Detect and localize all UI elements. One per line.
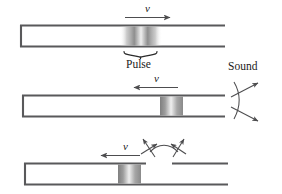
sound-emission-middle — [231, 82, 258, 121]
velocity-label-bottom: v — [123, 141, 128, 152]
velocity-label-top: v — [145, 3, 150, 14]
pulse-band-top — [120, 27, 162, 46]
double-headed-arrow-icon — [141, 144, 157, 154]
sound-pulse-tube-diagram — [0, 0, 282, 194]
sound-arrow-lower-icon — [231, 107, 258, 121]
sound-arc-icon — [234, 82, 239, 119]
sound-emission-bottom — [141, 139, 186, 157]
sound-label: Sound — [228, 61, 257, 73]
sound-arrow-upper-icon — [231, 83, 258, 97]
panel-top — [20, 18, 225, 59]
tube-middle — [22, 95, 225, 117]
pulse-block-middle — [160, 97, 183, 116]
double-headed-arrow-icon — [173, 139, 184, 157]
pulse-block-bottom — [118, 165, 141, 184]
pulse-label: Pulse — [126, 59, 151, 71]
panel-middle — [22, 82, 258, 121]
velocity-label-middle: v — [154, 73, 159, 84]
curly-brace-icon — [124, 52, 157, 58]
double-headed-arrow-icon — [143, 139, 155, 157]
double-headed-arrow-icon — [171, 144, 186, 154]
